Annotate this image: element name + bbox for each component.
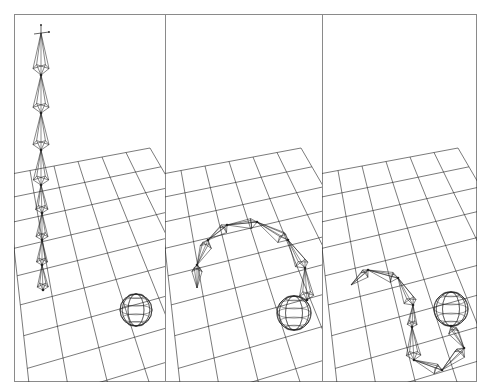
panel-initial-pose (14, 14, 165, 382)
target-sphere-icon (277, 296, 311, 331)
figure (0, 0, 489, 392)
joint-chain (192, 219, 314, 302)
panel-intermediate-pose (165, 14, 322, 382)
ground-grid (165, 148, 322, 382)
target-sphere-icon (120, 294, 152, 327)
panel-final-pose (322, 14, 477, 382)
axis-gizmo-icon (34, 24, 50, 34)
ground-grid (322, 148, 477, 382)
ground-grid (14, 148, 165, 382)
joint-chain (33, 33, 49, 291)
target-sphere-icon (434, 292, 468, 327)
